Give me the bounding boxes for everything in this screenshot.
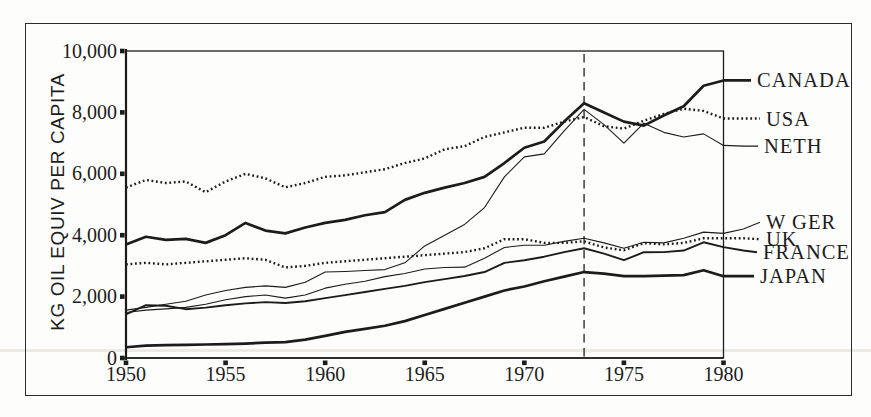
y-tick-0 [120, 356, 125, 361]
series-line-japan [126, 270, 754, 347]
series-line-canada [126, 80, 751, 244]
y-tick-label-4000: 4,000 [72, 224, 117, 246]
y-tick-10000 [120, 49, 125, 54]
y-tick-label-6000: 6,000 [72, 162, 117, 184]
x-tick-label-1950: 1950 [106, 363, 146, 385]
x-tick-label-1980: 1980 [704, 363, 744, 385]
scanned-chart-page: KG OIL EQUIV PER CAPITA 02,0004,0006,000… [0, 0, 871, 417]
plot-box [126, 51, 724, 358]
series-label-japan: JAPAN [760, 265, 827, 287]
y-tick-6000 [120, 172, 125, 177]
x-tick-label-1970: 1970 [504, 363, 544, 385]
y-tick-label-2000: 2,000 [72, 285, 117, 307]
series-label-neth: NETH [764, 135, 823, 157]
series-line-usa [126, 109, 760, 193]
y-axis-title: KG OIL EQUIV PER CAPITA [47, 47, 69, 357]
y-tick-label-10000: 10,000 [62, 40, 117, 62]
series-label-france: FRANCE [763, 241, 850, 263]
y-tick-4000 [120, 233, 125, 238]
x-tick-label-1965: 1965 [405, 363, 445, 385]
series-label-usa: USA [766, 108, 810, 130]
series-line-france [126, 242, 757, 314]
x-tick-label-1975: 1975 [604, 363, 644, 385]
y-tick-2000 [120, 294, 125, 299]
series-label-canada: CANADA [757, 69, 851, 91]
x-tick-label-1955: 1955 [206, 363, 246, 385]
x-tick-label-1960: 1960 [305, 363, 345, 385]
y-tick-label-8000: 8,000 [72, 101, 117, 123]
oil-consumption-line-chart: 02,0004,0006,0008,00010,0001950195519601… [0, 0, 871, 417]
y-tick-8000 [120, 110, 125, 115]
